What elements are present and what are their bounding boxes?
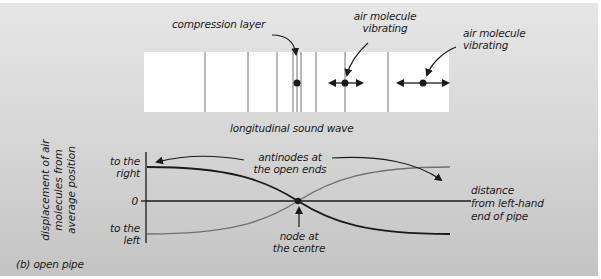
- node-label: node at the centre: [264, 230, 334, 254]
- y-tick-right-line1: to the: [92, 155, 140, 167]
- compression-layer-label: compression layer: [172, 18, 265, 30]
- x-axis-label-line3: end of pipe: [471, 210, 544, 223]
- node-label-line1: node at: [264, 230, 334, 242]
- molecule-2-label: air molecule vibrating: [463, 27, 525, 51]
- molecule-2-label-line2: vibrating: [463, 39, 525, 51]
- y-tick-zero: 0: [120, 195, 138, 207]
- molecule-1-label-line2: vibrating: [350, 22, 420, 34]
- antinodes-label: antinodes at the open ends: [246, 151, 334, 175]
- molecule-dot-compression: [294, 80, 301, 87]
- molecule-1-label-line1: air molecule: [350, 10, 420, 22]
- sound-wave-title: longitudinal sound wave: [230, 122, 354, 134]
- y-tick-right-line2: right: [92, 167, 140, 179]
- y-tick-left-line2: left: [92, 234, 140, 246]
- antinodes-label-line1: antinodes at: [246, 151, 334, 163]
- node-label-line2: the centre: [264, 242, 334, 254]
- molecule-1-label: air molecule vibrating: [350, 10, 420, 34]
- x-axis-label-line1: distance: [471, 184, 544, 197]
- antinode-left-arrow: [157, 156, 244, 162]
- y-axis-label-line1: displacement of air: [39, 135, 52, 245]
- x-axis-label: distance from left-hand end of pipe: [471, 184, 544, 223]
- node-dot: [295, 198, 301, 204]
- molecule-2-label-line1: air molecule: [463, 27, 525, 39]
- y-tick-left: to the left: [92, 222, 140, 246]
- compression-pointer-arrow: [272, 35, 296, 54]
- y-axis-label-line2: molecules from: [52, 135, 65, 245]
- y-tick-left-line1: to the: [92, 222, 140, 234]
- antinode-right-arrow: [332, 157, 441, 180]
- y-axis-label-line3: average position: [65, 135, 78, 245]
- y-axis-label: displacement of air molecules from avera…: [39, 135, 81, 245]
- antinodes-label-line2: the open ends: [246, 163, 334, 175]
- x-axis-label-line2: from left-hand: [471, 197, 544, 210]
- sound-wave-box: [144, 52, 449, 112]
- y-tick-right: to the right: [92, 155, 140, 179]
- figure-caption: (b) open pipe: [16, 258, 84, 270]
